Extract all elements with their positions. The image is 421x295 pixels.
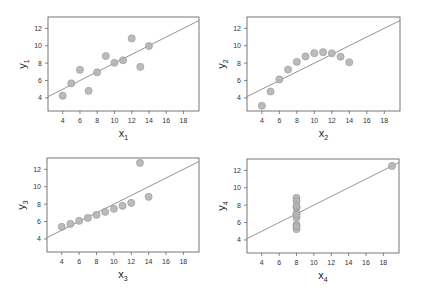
data-point — [293, 58, 300, 65]
data-point — [102, 208, 109, 215]
data-point — [258, 102, 265, 109]
y-axis-label: y2 — [215, 59, 229, 69]
y-tick-label: 8 — [38, 60, 42, 67]
scatter-panel-3: 46810121416184681012x3y3 — [15, 158, 199, 282]
y-tick-label: 6 — [37, 218, 41, 225]
y-tick-label: 12 — [233, 167, 241, 174]
x-tick-label: 14 — [345, 259, 353, 266]
data-point — [128, 199, 135, 206]
x-tick-label: 14 — [345, 117, 353, 124]
data-point — [76, 66, 83, 73]
x-tick-label: 10 — [111, 117, 119, 124]
data-point — [59, 92, 66, 99]
data-point — [93, 211, 100, 218]
data-point — [276, 76, 283, 83]
x-tick-label: 16 — [162, 258, 170, 265]
y-axis-label: y1 — [16, 59, 30, 69]
y-tick-label: 12 — [34, 25, 42, 32]
y-axis-label: y3 — [15, 200, 29, 210]
data-point — [84, 214, 91, 221]
x-tick-label: 12 — [327, 259, 335, 266]
data-point — [145, 193, 152, 200]
y-tick-label: 6 — [38, 77, 42, 84]
data-point — [110, 205, 117, 212]
data-point — [76, 217, 83, 224]
data-point — [58, 223, 65, 230]
x-tick-label: 16 — [362, 259, 370, 266]
x-tick-label: 10 — [310, 259, 318, 266]
data-point — [145, 42, 152, 49]
regression-line — [247, 162, 399, 238]
data-point — [293, 202, 300, 209]
x-tick-label: 6 — [277, 117, 281, 124]
y-tick-label: 8 — [237, 202, 241, 209]
data-point — [102, 52, 109, 59]
data-point — [319, 49, 326, 56]
data-point — [128, 35, 135, 42]
data-point — [293, 211, 300, 218]
x-tick-label: 8 — [95, 258, 99, 265]
y-tick-label: 8 — [237, 60, 241, 67]
data-point — [67, 220, 74, 227]
x-tick-label: 10 — [310, 117, 318, 124]
x-tick-label: 8 — [295, 259, 299, 266]
y-tick-label: 6 — [237, 77, 241, 84]
data-point — [388, 162, 395, 169]
data-point — [111, 59, 118, 66]
anscombe-quartet-chart: 46810121416184681012x1y14681012141618468… — [0, 0, 421, 295]
y-tick-label: 10 — [233, 184, 241, 191]
scatter-panel-2: 46810121416184681012x2y2 — [215, 17, 400, 141]
x-tick-label: 4 — [60, 258, 64, 265]
x-tick-label: 16 — [363, 117, 371, 124]
y-tick-label: 12 — [233, 25, 241, 32]
x-tick-label: 18 — [180, 117, 188, 124]
x-tick-label: 6 — [277, 259, 281, 266]
data-point — [68, 80, 75, 87]
data-point — [137, 63, 144, 70]
x-tick-label: 6 — [77, 258, 81, 265]
x-tick-label: 12 — [127, 258, 135, 265]
x-tick-label: 12 — [128, 117, 136, 124]
y-tick-label: 10 — [33, 183, 41, 190]
x-tick-label: 4 — [61, 117, 65, 124]
scatter-panel-1: 46810121416184681012x1y1 — [16, 17, 199, 141]
y-axis-label: y4 — [215, 201, 229, 211]
data-point — [85, 87, 92, 94]
y-tick-label: 12 — [33, 166, 41, 173]
data-point — [284, 66, 291, 73]
x-tick-label: 12 — [328, 117, 336, 124]
y-tick-label: 4 — [237, 236, 241, 243]
x-tick-label: 18 — [179, 258, 187, 265]
x-tick-label: 4 — [260, 259, 264, 266]
data-point — [136, 159, 143, 166]
data-point — [94, 69, 101, 76]
x-tick-label: 8 — [95, 117, 99, 124]
x-axis-label: x1 — [119, 127, 129, 141]
y-tick-label: 10 — [34, 42, 42, 49]
x-tick-label: 18 — [380, 117, 388, 124]
data-point — [302, 53, 309, 60]
data-point — [119, 202, 126, 209]
x-axis-label: x4 — [318, 269, 328, 283]
y-tick-label: 4 — [38, 94, 42, 101]
data-point — [328, 50, 335, 57]
x-tick-label: 6 — [78, 117, 82, 124]
y-tick-label: 6 — [237, 219, 241, 226]
scatter-panel-4: 46810121416184681012x4y4 — [215, 159, 399, 283]
y-tick-label: 8 — [37, 201, 41, 208]
x-axis-label: x3 — [118, 268, 128, 282]
x-tick-label: 10 — [110, 258, 118, 265]
x-tick-label: 16 — [162, 117, 170, 124]
data-point — [346, 59, 353, 66]
x-tick-label: 14 — [145, 117, 153, 124]
data-point — [119, 57, 126, 64]
y-tick-label: 10 — [233, 42, 241, 49]
x-tick-label: 18 — [379, 259, 387, 266]
x-axis-label: x2 — [319, 127, 329, 141]
y-tick-label: 4 — [237, 94, 241, 101]
regression-line — [247, 20, 400, 96]
plot-frame — [247, 17, 400, 111]
y-tick-label: 4 — [37, 235, 41, 242]
data-point — [337, 53, 344, 60]
x-tick-label: 4 — [260, 117, 264, 124]
